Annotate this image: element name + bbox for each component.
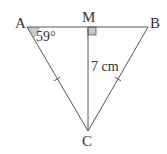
vertex-label-a: A	[15, 15, 26, 31]
triangle-diagram: A M B C 59° 7 cm	[0, 0, 167, 154]
right-angle-marker	[88, 27, 96, 35]
vertex-label-m: M	[82, 9, 95, 25]
angle-label: 59°	[36, 29, 56, 44]
vertex-label-b: B	[150, 15, 160, 31]
tick-mark-bc	[115, 77, 121, 81]
height-label: 7 cm	[91, 59, 119, 74]
vertex-label-c: C	[82, 133, 92, 149]
